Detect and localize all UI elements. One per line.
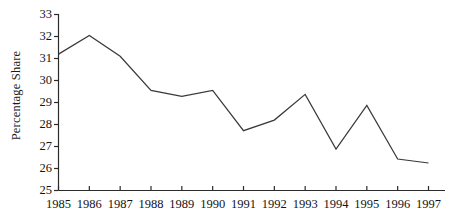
data-series-line	[59, 35, 429, 163]
y-axis-tick-label: 30	[30, 74, 52, 87]
plot-area	[0, 0, 457, 222]
x-axis-tick-label: 1997	[409, 198, 449, 211]
line-chart: Percentage Share 252627282930313233 1985…	[0, 0, 457, 222]
y-axis-tick-label: 32	[30, 30, 52, 43]
y-axis-ticks	[54, 15, 59, 191]
y-axis-tick-label: 25	[30, 184, 52, 197]
x-axis	[59, 186, 446, 191]
y-axis-tick-label: 27	[30, 140, 52, 153]
y-axis-tick-label: 31	[30, 52, 52, 65]
y-axis	[54, 14, 59, 191]
y-axis-tick-label: 33	[30, 8, 52, 21]
y-axis-tick-label: 29	[30, 96, 52, 109]
x-axis-ticks	[59, 186, 429, 191]
y-axis-tick-label: 26	[30, 162, 52, 175]
y-axis-tick-label: 28	[30, 118, 52, 131]
